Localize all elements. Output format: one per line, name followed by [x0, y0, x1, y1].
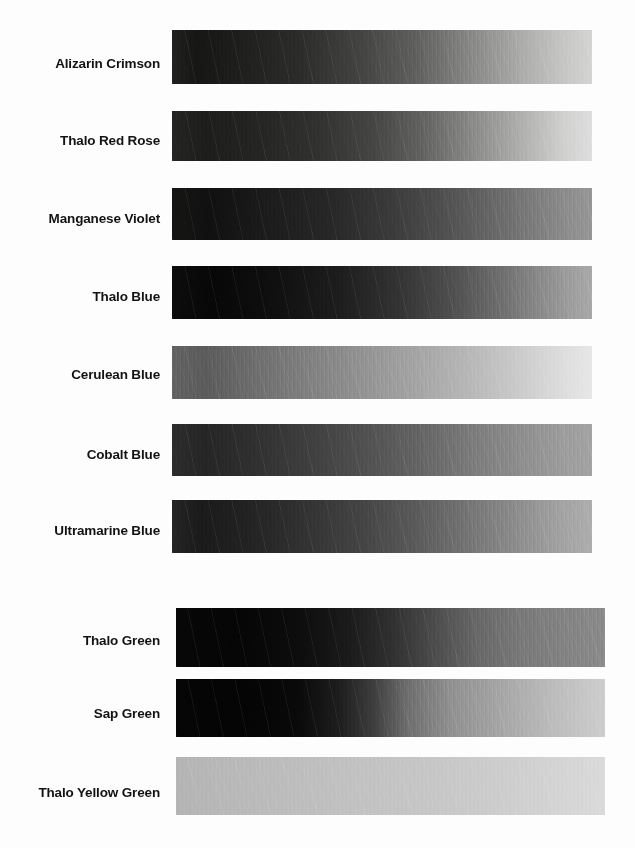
pigment-value-gradient-band — [172, 111, 592, 161]
pigment-name-label: Thalo Yellow Green — [0, 786, 160, 800]
pigment-value-scale-chart: Alizarin CrimsonThalo Red RoseManganese … — [0, 0, 635, 848]
pigment-value-gradient-band — [172, 266, 592, 319]
pigment-value-gradient-band — [172, 424, 592, 476]
pigment-name-label: Thalo Blue — [0, 290, 160, 304]
pigment-name-label: Ultramarine Blue — [0, 524, 160, 538]
pigment-name-label: Thalo Red Rose — [0, 134, 160, 148]
pigment-name-label: Cerulean Blue — [0, 368, 160, 382]
pigment-value-gradient-band — [172, 500, 592, 553]
pigment-value-gradient-band — [172, 346, 592, 399]
pigment-name-label: Thalo Green — [0, 634, 160, 648]
pigment-name-label: Alizarin Crimson — [0, 57, 160, 71]
pigment-name-label: Sap Green — [0, 707, 160, 721]
pigment-value-gradient-band — [176, 757, 605, 815]
pigment-value-gradient-band — [176, 679, 605, 737]
pigment-value-gradient-band — [172, 30, 592, 84]
pigment-name-label: Cobalt Blue — [0, 448, 160, 462]
pigment-value-gradient-band — [176, 608, 605, 667]
pigment-name-label: Manganese Violet — [0, 212, 160, 226]
pigment-value-gradient-band — [172, 188, 592, 240]
